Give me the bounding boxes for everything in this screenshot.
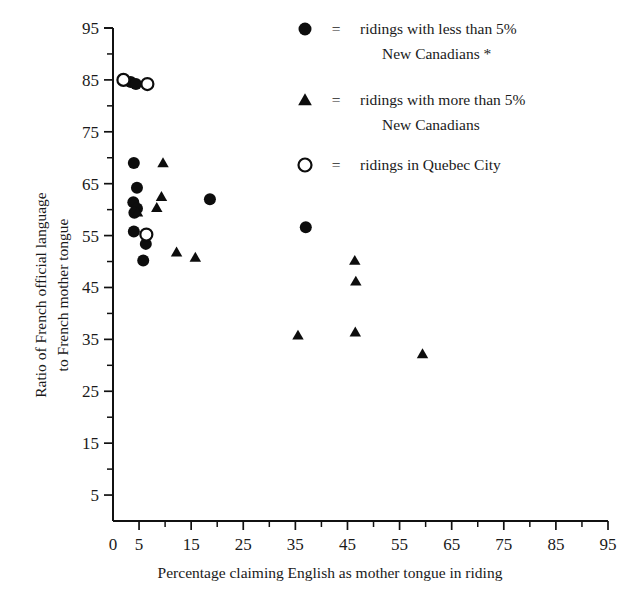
legend-equals-sign: = <box>332 156 341 173</box>
legend-marker-filled-triangle <box>298 93 312 105</box>
data-point-open-circle <box>117 74 129 86</box>
data-point-filled-triangle <box>350 327 361 337</box>
data-point-filled-triangle <box>350 276 361 286</box>
x-tick-label: 25 <box>235 535 252 554</box>
y-tick-label: 95 <box>82 19 99 38</box>
y-axis-ticks <box>104 28 113 495</box>
y-tick-label: 15 <box>82 434 99 453</box>
data-point-filled-circle <box>130 78 142 90</box>
legend-label-line1: ridings in Quebec City <box>360 156 501 173</box>
legend-equals-sign: = <box>332 91 341 108</box>
x-tick-label: 85 <box>547 535 564 554</box>
x-axis-ticks <box>139 521 608 530</box>
x-tick-label: 75 <box>495 535 512 554</box>
data-point-filled-circle <box>131 182 143 194</box>
data-point-filled-triangle <box>190 252 201 262</box>
data-point-filled-triangle <box>292 330 303 340</box>
data-point-filled-circle <box>137 254 149 266</box>
legend-equals-sign: = <box>332 20 341 37</box>
legend: =ridings with less than 5%New Canadians … <box>298 20 525 173</box>
x-tick-label: 35 <box>287 535 304 554</box>
data-point-filled-triangle <box>157 157 168 167</box>
data-point-filled-circle <box>204 193 216 205</box>
y-tick-label: 25 <box>82 382 99 401</box>
series-0 <box>125 76 312 267</box>
x-tick-label: 45 <box>339 535 356 554</box>
x-tick-label: 65 <box>443 535 460 554</box>
plot-canvas: 5152535455565758595 05152535455565758595… <box>0 0 633 601</box>
y-tick-label: 85 <box>82 71 99 90</box>
legend-label-line2: New Canadians * <box>382 45 492 62</box>
data-point-open-circle <box>140 229 152 241</box>
x-tick-label: 95 <box>600 535 617 554</box>
y-axis-title-line2: to French mother tongue <box>54 218 71 371</box>
x-axis-title: Percentage claiming English as mother to… <box>158 564 503 581</box>
data-point-filled-circle <box>128 157 140 169</box>
data-point-filled-triangle <box>171 247 182 257</box>
y-tick-label: 65 <box>82 175 99 194</box>
series-1 <box>132 157 428 358</box>
data-point-filled-circle <box>300 221 312 233</box>
data-point-filled-triangle <box>417 348 428 358</box>
y-tick-label: 35 <box>82 330 99 349</box>
data-point-filled-circle <box>128 225 140 237</box>
x-tick-label: 5 <box>135 535 144 554</box>
y-tick-label: 45 <box>82 278 99 297</box>
x-tick-label: 55 <box>391 535 408 554</box>
x-tick-label: 0 <box>109 535 118 554</box>
data-point-filled-triangle <box>349 255 360 265</box>
x-tick-label: 15 <box>183 535 200 554</box>
y-tick-label: 55 <box>82 227 99 246</box>
data-point-filled-triangle <box>156 191 167 201</box>
y-tick-label: 75 <box>82 123 99 142</box>
y-axis-title-line1: Ratio of French official language <box>32 192 49 398</box>
legend-label-line1: ridings with more than 5% <box>360 91 525 108</box>
legend-label-line1: ridings with less than 5% <box>360 20 517 37</box>
y-tick-label: 5 <box>91 486 100 505</box>
legend-marker-filled-circle <box>299 23 312 36</box>
y-axis-tick-labels: 5152535455565758595 <box>82 19 99 505</box>
data-point-open-circle <box>141 78 153 90</box>
legend-label-line2: New Canadians <box>382 116 480 133</box>
scatter-plot-figure: 5152535455565758595 05152535455565758595… <box>0 0 633 601</box>
x-axis-tick-labels: 05152535455565758595 <box>109 535 617 554</box>
data-point-filled-triangle <box>151 202 162 212</box>
legend-marker-open-circle <box>299 159 312 172</box>
